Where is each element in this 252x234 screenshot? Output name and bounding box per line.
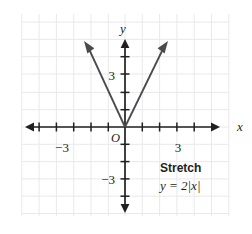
origin-label: O [111,131,120,145]
function-curve [84,41,168,127]
y-tick-label-neg3: −3 [101,172,115,187]
y-axis-label: y [118,21,126,36]
x-axis [25,123,220,132]
y-axis-bottom-arrowhead [121,204,130,213]
y-tick-label-3: 3 [109,68,116,83]
graph-figure: x y O −3 3 3 −3 Stretch y = 2|x| [0,0,252,234]
coordinate-plane: x y O −3 3 3 −3 Stretch y = 2|x| [0,0,252,234]
annotation-title: Stretch [160,161,201,175]
x-tick-label-3: 3 [175,140,182,155]
annotation-equation: y = 2|x| [158,178,200,193]
x-axis-label: x [236,119,243,134]
curve-left-arrowhead [84,41,94,54]
x-axis-left-arrowhead [25,123,34,132]
x-tick-label-neg3: −3 [55,140,69,155]
x-axis-right-arrowhead [211,123,220,132]
y-axis-top-arrowhead [121,39,130,48]
